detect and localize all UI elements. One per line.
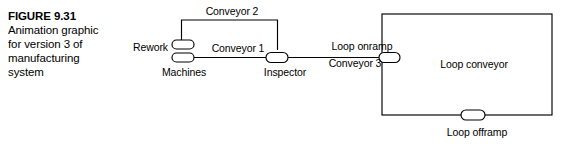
conveyor-2-label: Conveyor 2: [206, 5, 259, 17]
manufacturing-system-diagram: Rework Machines Conveyor 1 Conveyor 2 In…: [0, 0, 588, 146]
inspector-capsule[interactable]: [266, 53, 288, 63]
figure-container: FIGURE 9.31 Animation graphic for versio…: [0, 0, 588, 146]
conveyor-1-label: Conveyor 1: [212, 42, 265, 54]
loop-offramp-label: Loop offramp: [447, 126, 508, 138]
machines-capsule-lower: [172, 53, 194, 62]
loop-onramp-capsule[interactable]: [379, 53, 400, 63]
loop-offramp-capsule[interactable]: [461, 110, 485, 120]
conveyor-3-label: Conveyor 3: [329, 57, 382, 69]
rework-label: Rework: [133, 41, 169, 53]
loop-conveyor-label: Loop conveyor: [440, 58, 508, 70]
inspector-label: Inspector: [264, 66, 307, 78]
machines-node[interactable]: [172, 40, 194, 62]
loop-onramp-label: Loop onramp: [332, 40, 393, 52]
machines-capsule-upper: [172, 40, 194, 49]
machines-label: Machines: [162, 66, 206, 78]
